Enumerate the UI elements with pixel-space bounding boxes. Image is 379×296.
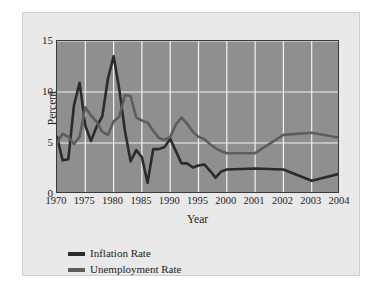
x-tick-label: 2000	[211, 196, 241, 207]
plot-wrapper: 051015 197019751980198519901995200020012…	[56, 40, 339, 193]
y-axis-title: Percent	[46, 78, 58, 138]
x-tick-label: 1985	[126, 196, 156, 207]
x-tick-label: 1980	[98, 196, 128, 207]
y-tick-label: 5	[13, 137, 53, 148]
legend-line-swatch-icon	[68, 252, 85, 256]
chart-legend: Inflation Rate Unemployment Rate	[68, 247, 181, 279]
legend-label: Inflation Rate	[90, 248, 151, 259]
x-tick-label: 1995	[183, 196, 213, 207]
legend-label: Unemployment Rate	[90, 264, 181, 275]
x-axis-title: Year	[56, 213, 339, 225]
chart-canvas	[57, 41, 339, 193]
y-tick-label: 15	[13, 35, 53, 46]
x-tick-label: 2003	[296, 196, 326, 207]
plot-area	[56, 40, 339, 193]
legend-item-unemployment: Unemployment Rate	[68, 263, 181, 276]
x-tick-label: 1990	[154, 196, 184, 207]
legend-line-swatch-icon	[68, 268, 85, 272]
x-tick-label: 2002	[267, 196, 297, 207]
chart-figure: 051015 197019751980198519901995200020012…	[0, 0, 379, 296]
legend-item-inflation: Inflation Rate	[68, 247, 181, 260]
figure-panel: 051015 197019751980198519901995200020012…	[22, 12, 360, 276]
x-tick-label: 1970	[41, 196, 71, 207]
x-tick-label: 2004	[324, 196, 354, 207]
x-tick-label: 2001	[239, 196, 269, 207]
x-tick-label: 1975	[69, 196, 99, 207]
